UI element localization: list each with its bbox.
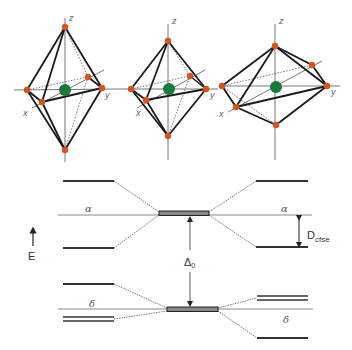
alpha-level-center	[159, 211, 209, 216]
axis-label-x: x	[218, 109, 224, 119]
axis-label-z: z	[68, 13, 74, 23]
metal-atom	[59, 84, 71, 96]
diagram-canvas: z y x z y x	[0, 0, 352, 350]
axis-label-x: x	[22, 108, 28, 118]
axis-label-z: z	[278, 16, 284, 26]
axis-label-x: x	[135, 108, 141, 118]
energy-level-diagram: E α α Dcfse Δ0	[28, 181, 330, 338]
delta-label-right: δ	[283, 314, 289, 325]
delta-label-left: δ	[89, 298, 95, 309]
axis-label-y: y	[104, 90, 110, 100]
metal-atom	[163, 83, 175, 95]
axis-label-y: y	[209, 90, 215, 100]
alpha-label-right: α	[281, 203, 288, 214]
delta-level-center	[167, 307, 218, 312]
cfse-label: Dcfse	[307, 229, 330, 244]
energy-axis-label: E	[28, 250, 35, 262]
octahedron-elongated: z y x	[14, 13, 120, 162]
axis-label-z: z	[171, 16, 177, 26]
octahedron-compressed: z y x	[218, 16, 340, 160]
delta-zero-label: Δ0	[184, 256, 195, 269]
alpha-label-left: α	[85, 203, 92, 214]
metal-atom	[270, 81, 282, 93]
axis-label-y: y	[330, 87, 336, 97]
octahedron-regular: z y x	[120, 16, 218, 160]
